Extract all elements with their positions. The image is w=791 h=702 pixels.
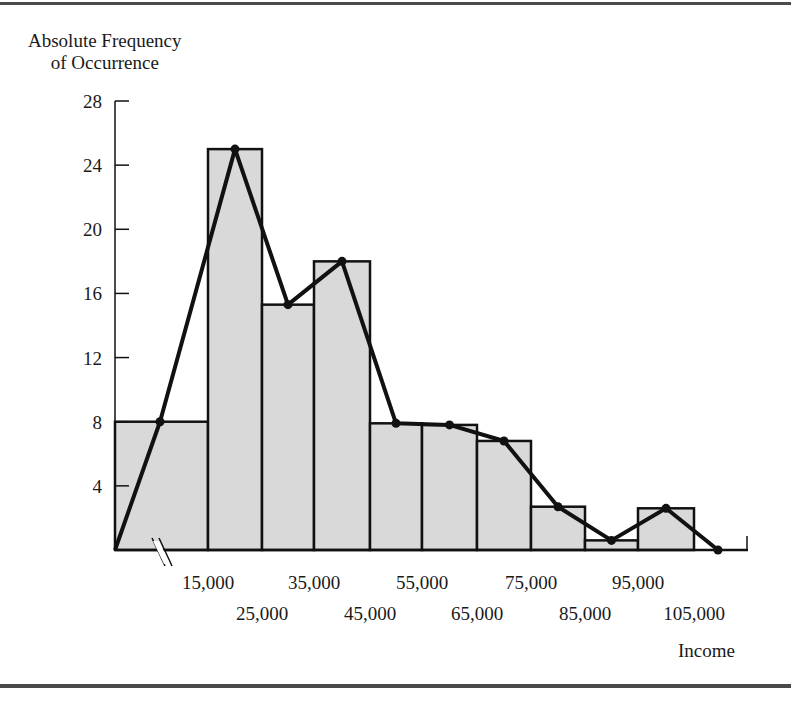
y-tick-label: 12 <box>83 348 102 369</box>
frequency-polygon-point <box>662 504 671 513</box>
x-tick-label: 35,000 <box>288 572 340 593</box>
x-tick-label: 25,000 <box>236 603 288 624</box>
x-axis-title: Income <box>678 640 735 662</box>
y-tick-label: 8 <box>93 412 103 433</box>
frequency-polygon-point <box>445 420 454 429</box>
frequency-polygon-point <box>714 546 723 555</box>
x-tick-label: 85,000 <box>559 603 611 624</box>
histogram-bar <box>477 441 531 550</box>
frequency-polygon-point <box>607 536 616 545</box>
histogram-bar <box>531 507 585 550</box>
y-tick-label: 20 <box>83 219 102 240</box>
y-tick-label: 24 <box>83 155 103 176</box>
frequency-polygon-point <box>156 417 165 426</box>
histogram-bar <box>370 423 422 550</box>
histogram-bar <box>314 261 370 550</box>
frequency-polygon-point <box>554 502 563 511</box>
x-tick-label: 105,000 <box>663 603 725 624</box>
x-tick-label: 55,000 <box>396 572 448 593</box>
histogram-bar <box>638 508 694 550</box>
y-tick-label: 16 <box>83 283 102 304</box>
frequency-polygon-point <box>231 145 240 154</box>
frequency-polygon-point <box>392 419 401 428</box>
y-tick-label: 28 <box>83 91 102 112</box>
bottom-rule <box>0 684 791 688</box>
frequency-polygon-point <box>284 300 293 309</box>
x-tick-label: 75,000 <box>505 572 557 593</box>
histogram-bar <box>422 425 477 550</box>
x-tick-label: 15,000 <box>182 572 234 593</box>
x-tick-label: 95,000 <box>612 572 664 593</box>
histogram-bar <box>262 305 314 550</box>
frequency-polygon-point <box>338 257 347 266</box>
x-tick-label: 65,000 <box>451 603 503 624</box>
y-tick-label: 4 <box>93 476 103 497</box>
frequency-polygon-point <box>500 436 509 445</box>
x-tick-label: 45,000 <box>344 603 396 624</box>
histogram-chart: 48121620242815,00035,00055,00075,00095,0… <box>0 0 791 702</box>
